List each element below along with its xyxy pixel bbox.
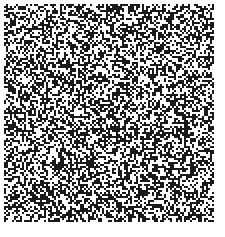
noise-canvas: [4, 4, 214, 222]
